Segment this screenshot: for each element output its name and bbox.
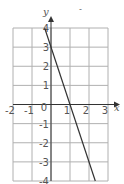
x-tick-label: 0 (41, 102, 47, 113)
x-tick-label: 1 (64, 105, 70, 116)
x-axis-label: x (114, 102, 120, 113)
y-tick-label: 3 (43, 42, 49, 53)
x-tick-label: -2 (5, 105, 15, 116)
y-axis-label: y (42, 6, 49, 17)
graph: -2-101234321-1-2-3-4 x y - (0, 0, 124, 184)
y-tick-label: -4 (39, 176, 49, 184)
y-tick-label: 2 (43, 61, 49, 72)
axes (13, 16, 120, 181)
y-tick-label: -2 (39, 138, 49, 149)
y-tick-label: -1 (39, 119, 49, 130)
x-tick-label: 3 (102, 105, 108, 116)
x-tick-label: -1 (24, 105, 34, 116)
x-tick-label: 2 (83, 105, 89, 116)
stray-mark: - (79, 5, 82, 14)
y-tick-label: -3 (39, 157, 49, 168)
y-tick-label: 1 (43, 80, 49, 91)
y-axis-arrow-icon (48, 16, 54, 22)
